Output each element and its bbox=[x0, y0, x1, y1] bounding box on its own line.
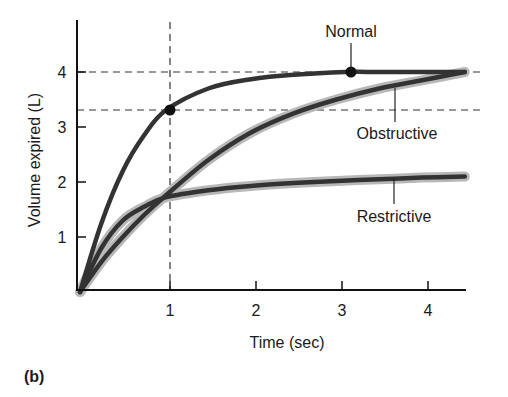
x-tick-label: 2 bbox=[252, 302, 261, 319]
label-obstructive: Obstructive bbox=[357, 125, 438, 142]
spirometry-chart: 1 2 3 4 1 2 3 4 Time (sec) Volume expire… bbox=[0, 0, 508, 397]
label-restrictive: Restrictive bbox=[357, 208, 432, 225]
y-tick-label: 3 bbox=[58, 119, 67, 136]
y-tick-label: 4 bbox=[58, 64, 67, 81]
y-axis-title: Volume expired (L) bbox=[26, 93, 43, 227]
y-tick-label: 2 bbox=[58, 174, 67, 191]
curve-restrictive bbox=[80, 177, 465, 293]
x-tick-label: 1 bbox=[166, 302, 175, 319]
label-normal: Normal bbox=[325, 23, 377, 40]
curve-halos bbox=[80, 72, 465, 292]
y-ticks bbox=[77, 72, 86, 237]
x-ticks bbox=[170, 281, 428, 290]
y-tick-label: 1 bbox=[58, 229, 67, 246]
panel-label: (b) bbox=[24, 368, 44, 385]
x-axis-title: Time (sec) bbox=[250, 334, 325, 351]
marker-fev1 bbox=[165, 105, 176, 116]
x-tick-label: 3 bbox=[338, 302, 347, 319]
x-tick-label: 4 bbox=[424, 302, 433, 319]
